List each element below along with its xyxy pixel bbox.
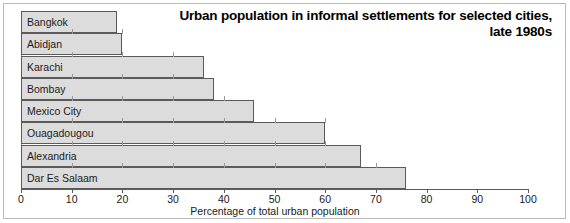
x-axis-tick-label: 30 — [167, 193, 179, 205]
chart-title: Urban population in informal settlements… — [136, 8, 552, 40]
grid-stub — [275, 163, 276, 168]
bar-category-label: Karachi — [27, 56, 63, 78]
x-axis-tick-label: 50 — [269, 193, 281, 205]
x-axis-label: Percentage of total urban population — [21, 205, 529, 217]
grid-stub — [173, 52, 174, 57]
grid-stub — [122, 141, 123, 146]
grid-stub — [122, 74, 123, 79]
bar-row: Mexico City — [21, 100, 254, 122]
grid-stub — [325, 118, 326, 123]
grid-stub — [173, 118, 174, 123]
grid-stub — [72, 96, 73, 101]
grid-stub — [122, 29, 123, 34]
bar-category-label: Abidjan — [27, 33, 62, 55]
bar-row: Bombay — [21, 78, 214, 100]
grid-stub — [173, 96, 174, 101]
grid-stub — [325, 141, 326, 146]
grid-stub — [122, 96, 123, 101]
grid-stub — [224, 163, 225, 168]
x-axis-tick-label: 80 — [421, 193, 433, 205]
grid-stub — [72, 29, 73, 34]
chart-figure: Urban population in informal settlements… — [0, 0, 570, 223]
grid-stub — [72, 74, 73, 79]
bar-category-label: Ouagadougou — [27, 122, 94, 144]
bar-category-label: Dar Es Salaam — [27, 167, 98, 189]
grid-stub — [72, 52, 73, 57]
grid-stub — [72, 141, 73, 146]
bar-category-label: Bombay — [27, 78, 66, 100]
bar-category-label: Mexico City — [27, 100, 81, 122]
grid-stub — [122, 163, 123, 168]
grid-stub — [224, 96, 225, 101]
grid-stub — [275, 141, 276, 146]
chart-title-line-2: late 1980s — [136, 24, 552, 40]
x-axis-tick-label: 70 — [370, 193, 382, 205]
bar-category-label: Alexandria — [27, 145, 77, 167]
x-axis-tick-label: 40 — [218, 193, 230, 205]
grid-stub — [325, 163, 326, 168]
x-axis-tick-label: 90 — [471, 193, 483, 205]
grid-stub — [224, 141, 225, 146]
grid-stub — [122, 118, 123, 123]
bar-category-label: Bangkok — [27, 11, 68, 33]
bar-row: Karachi — [21, 56, 204, 78]
bar-row: Bangkok — [21, 11, 117, 33]
grid-stub — [122, 52, 123, 57]
grid-stub — [72, 163, 73, 168]
grid-stub — [376, 163, 377, 168]
grid-stub — [173, 141, 174, 146]
x-axis-tick-label: 0 — [18, 193, 24, 205]
x-axis-tick-label: 10 — [66, 193, 78, 205]
x-axis-tick-label: 100 — [519, 193, 537, 205]
chart-title-line-1: Urban population in informal settlements… — [136, 8, 552, 24]
grid-stub — [275, 118, 276, 123]
grid-stub — [72, 118, 73, 123]
x-axis-tick-label: 20 — [117, 193, 129, 205]
grid-stub — [173, 163, 174, 168]
x-axis-tick-label: 60 — [319, 193, 331, 205]
grid-stub — [224, 118, 225, 123]
grid-stub — [173, 74, 174, 79]
bar-row: Dar Es Salaam — [21, 167, 406, 189]
